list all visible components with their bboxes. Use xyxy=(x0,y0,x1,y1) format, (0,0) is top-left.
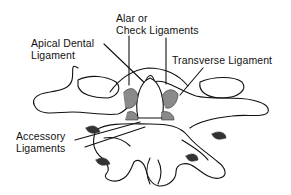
dens xyxy=(137,76,164,119)
label-transverse-ligament: Transverse Ligament xyxy=(172,54,272,66)
label-alar-ligaments: Alar or Check Ligaments xyxy=(116,12,199,36)
label-accessory-ligaments: Accessory Ligaments xyxy=(16,130,65,154)
accessory-line-1: Accessory xyxy=(16,130,65,142)
apical-line-2: Ligament xyxy=(31,49,94,61)
alar-line-2: Check Ligaments xyxy=(116,24,199,36)
axis-vertebra xyxy=(94,124,226,186)
transverse-line-1: Transverse Ligament xyxy=(172,54,272,66)
apical-line-1: Apical Dental xyxy=(31,37,94,49)
alar-line-1: Alar or xyxy=(116,12,199,24)
label-apical-dental-ligament: Apical Dental Ligament xyxy=(31,37,94,61)
accessory-line-2: Ligaments xyxy=(16,142,65,154)
